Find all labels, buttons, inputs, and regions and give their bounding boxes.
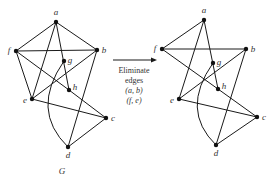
vertex-a (54, 20, 58, 24)
vertex-b (95, 48, 99, 52)
edge-f-b (16, 50, 97, 51)
vertex-a (202, 18, 206, 22)
edge-a-f (162, 20, 204, 49)
edge-a-f (16, 22, 56, 51)
graph-g-original: abcdefgh (8, 7, 115, 160)
vertex-label-b: b (102, 45, 107, 55)
vertex-f (160, 47, 164, 51)
vertex-h (67, 88, 71, 92)
vertex-label-e: e (23, 95, 27, 105)
arrow-label-line-1: Eliminate (118, 66, 150, 75)
vertex-h (216, 87, 220, 91)
graph-caption: G (59, 166, 66, 176)
elimination-arrow: Eliminate edges (a, b) (f, e) (113, 58, 157, 106)
vertex-label-f: f (154, 43, 158, 53)
edge-a-e (32, 22, 56, 99)
edge-f-e (16, 51, 32, 99)
vertex-b (244, 47, 248, 51)
arrow-head-icon (151, 58, 157, 63)
edge-d-c (216, 117, 257, 145)
vertex-label-c: c (111, 113, 115, 123)
vertex-label-h: h (73, 82, 78, 92)
graph-elimination-diagram: abcdefgh abcdefgh Eliminate edges (a, b)… (0, 0, 273, 178)
arrow-label-line-4: (f, e) (126, 96, 141, 105)
graph-after-elimination: abcdefgh (154, 5, 266, 158)
vertex-label-f: f (8, 45, 12, 55)
arrow-label-line-2: edges (125, 76, 143, 85)
vertex-label-b: b (251, 44, 256, 54)
edge-b-d (68, 50, 97, 147)
vertex-c (104, 116, 108, 120)
vertex-c (255, 115, 259, 119)
vertex-g (62, 59, 66, 63)
vertex-f (14, 49, 18, 53)
vertex-label-g: g (217, 57, 222, 67)
vertex-label-d: d (66, 150, 71, 160)
vertex-e (177, 97, 181, 101)
vertex-g (211, 61, 215, 65)
edge-e-c (32, 99, 106, 118)
vertex-e (30, 97, 34, 101)
edge-d-c (68, 118, 106, 147)
edge-a-b (56, 22, 97, 50)
edge-e-b (32, 50, 97, 99)
arrow-label-line-3: (a, b) (125, 86, 143, 95)
vertex-d (66, 145, 70, 149)
edge-h-c (69, 90, 106, 118)
vertex-label-a: a (202, 5, 207, 15)
vertex-label-e: e (170, 95, 174, 105)
vertex-label-c: c (262, 112, 266, 122)
vertex-d (214, 143, 218, 147)
vertex-label-h: h (222, 81, 227, 91)
edge-f-h (16, 51, 69, 90)
vertex-label-a: a (54, 7, 59, 17)
vertex-label-g: g (68, 55, 73, 65)
edge-e-b (179, 49, 246, 99)
vertex-label-d: d (214, 148, 219, 158)
